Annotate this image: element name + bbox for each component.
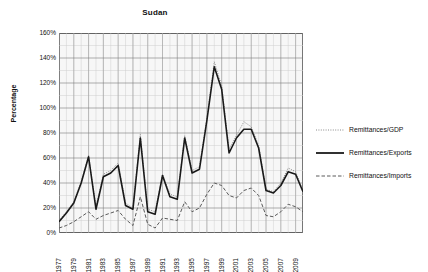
x-tick-label: 1977 (56, 258, 63, 272)
data-series-lines (59, 33, 303, 233)
x-tick-label: 1987 (129, 258, 136, 272)
y-tick-label: 160% (22, 30, 56, 37)
x-tick-label: 1999 (218, 258, 225, 272)
legend-label: Remittances/GDP (349, 126, 403, 133)
x-tick-label: 2005 (263, 258, 270, 272)
series-line (59, 67, 303, 222)
x-tick-label: 2007 (277, 258, 284, 272)
x-tick-label: 1989 (144, 258, 151, 272)
y-axis-tick-labels: 0%20%40%60%80%100%120%140%160% (18, 33, 56, 233)
x-tick-label: 1983 (100, 258, 107, 272)
y-tick-label: 40% (22, 180, 56, 187)
legend-swatch-icon (316, 172, 344, 180)
y-tick-label: 80% (22, 130, 56, 137)
x-tick-label: 1997 (203, 258, 210, 272)
x-axis-tick-labels: 1977197919811983198519871989199119931995… (59, 236, 303, 272)
x-tick-label: 1979 (70, 258, 77, 272)
y-tick-label: 20% (22, 205, 56, 212)
legend-swatch-icon (316, 149, 344, 157)
legend-item[interactable]: Remittances/GDP (316, 118, 428, 141)
legend-label: Remittances/Imports (349, 172, 411, 179)
x-tick-label: 1995 (189, 258, 196, 272)
legend-swatch-icon (316, 126, 344, 134)
x-tick-label: 1993 (174, 258, 181, 272)
y-axis-label: Percentage (10, 64, 17, 144)
x-tick-label: 2001 (233, 258, 240, 272)
series-line (59, 62, 303, 221)
x-tick-label: 2009 (292, 258, 299, 272)
legend-item[interactable]: Remittances/Imports (316, 164, 428, 187)
y-tick-label: 60% (22, 155, 56, 162)
y-tick-label: 0% (22, 230, 56, 237)
plot-area (59, 33, 303, 233)
x-tick-label: 1991 (159, 258, 166, 272)
x-tick-label: 1985 (115, 258, 122, 272)
chart-figure: Sudan Percentage 0%20%40%60%80%100%120%1… (0, 0, 428, 272)
x-tick-label: 2003 (248, 258, 255, 272)
x-tick-label: 1981 (85, 258, 92, 272)
chart-legend: Remittances/GDPRemittances/ExportsRemitt… (316, 118, 428, 187)
y-tick-label: 140% (22, 55, 56, 62)
legend-item[interactable]: Remittances/Exports (316, 141, 428, 164)
y-tick-label: 120% (22, 80, 56, 87)
chart-title: Sudan (0, 8, 310, 17)
y-tick-label: 100% (22, 105, 56, 112)
legend-label: Remittances/Exports (349, 149, 412, 156)
